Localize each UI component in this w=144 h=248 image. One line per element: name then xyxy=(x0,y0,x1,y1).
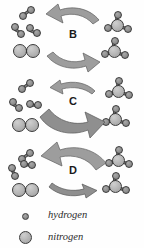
legend-item-hydrogen: hydrogen xyxy=(0,208,144,228)
nitrogen-atom xyxy=(25,183,39,197)
hydrogen-atom xyxy=(18,85,26,93)
product-molecules-B xyxy=(96,0,144,72)
hydrogen-swatch-icon xyxy=(22,213,29,220)
hydrogen-atom xyxy=(8,164,16,172)
hydrogen-atom xyxy=(114,11,122,19)
legend-item-nitrogen: nitrogen xyxy=(0,228,144,248)
panel-C: C xyxy=(0,72,144,142)
hydrogen-atom xyxy=(15,104,23,112)
hydrogen-atom xyxy=(26,100,34,108)
hydrogen-atom xyxy=(122,186,130,194)
hydrogen-atom xyxy=(17,30,25,38)
nitrogen-atom xyxy=(109,113,122,126)
hydrogen-atom xyxy=(27,6,35,14)
nitrogen-atom xyxy=(111,19,124,32)
hydrogen-atom xyxy=(26,149,34,157)
hydrogen-atom xyxy=(101,50,109,58)
nitrogen-atom xyxy=(112,85,125,98)
nitrogen-atom xyxy=(109,180,122,193)
forward-reaction-arrow-B xyxy=(44,44,102,70)
nitrogen-atom xyxy=(26,44,40,58)
nitrogen-atom xyxy=(112,154,125,167)
hydrogen-atom xyxy=(11,172,19,180)
hydrogen-atom xyxy=(105,90,113,98)
nitrogen-atom xyxy=(25,118,39,132)
hydrogen-atom xyxy=(121,51,129,59)
forward-reaction-arrow-D xyxy=(45,180,100,198)
hydrogen-atom xyxy=(26,79,34,87)
nitrogen-atom xyxy=(12,183,26,197)
hydrogen-atom xyxy=(33,29,41,37)
hydrogen-atom xyxy=(19,12,27,20)
nitrogen-swatch-icon xyxy=(19,231,32,244)
panel-label-D: D xyxy=(65,164,81,176)
equilibrium-diagram: B xyxy=(0,0,144,248)
legend-label-nitrogen: nitrogen xyxy=(48,231,83,242)
hydrogen-atom xyxy=(115,146,123,154)
hydrogen-atom xyxy=(115,77,123,85)
nitrogen-atom xyxy=(13,44,27,58)
nitrogen-atom xyxy=(108,45,121,58)
panel-B: B xyxy=(0,0,144,72)
hydrogen-atom xyxy=(20,160,28,168)
nitrogen-atom xyxy=(12,118,26,132)
hydrogen-atom xyxy=(112,105,120,113)
hydrogen-atom xyxy=(104,24,112,32)
hydrogen-atom xyxy=(125,91,133,99)
hydrogen-atom xyxy=(102,185,110,193)
hydrogen-atom xyxy=(122,119,130,127)
panel-label-B: B xyxy=(65,28,81,40)
legend: hydrogen nitrogen xyxy=(0,206,144,248)
hydrogen-atom xyxy=(112,172,120,180)
legend-label-hydrogen: hydrogen xyxy=(48,209,87,220)
forward-reaction-arrow-C xyxy=(38,104,108,138)
panel-label-C: C xyxy=(65,95,81,107)
hydrogen-atom xyxy=(125,160,133,168)
hydrogen-atom xyxy=(111,37,119,45)
hydrogen-atom xyxy=(124,25,132,33)
hydrogen-atom xyxy=(28,161,36,169)
panel-D: D xyxy=(0,142,144,206)
